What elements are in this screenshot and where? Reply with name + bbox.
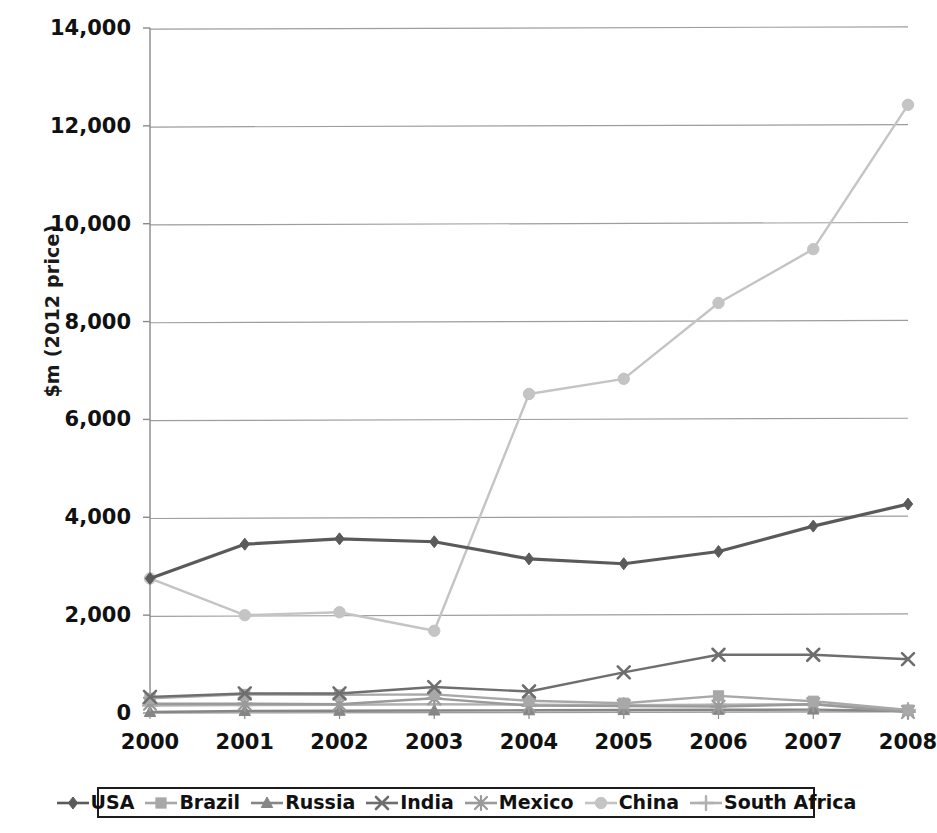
legend-item-label: Russia <box>285 793 355 812</box>
legend-item-china[interactable]: China <box>579 793 684 812</box>
legend-item-label: USA <box>91 793 135 812</box>
marker-diamond <box>619 558 628 570</box>
marker-circle <box>595 797 606 808</box>
legend-item-label: South Africa <box>724 793 856 812</box>
chart-legend: USABrazilRussiaIndiaMexicoChinaSouth Afr… <box>97 787 815 818</box>
legend-marker-square-icon <box>144 794 178 812</box>
gridline-10000 <box>150 223 908 225</box>
marker-asterisk <box>474 796 488 810</box>
gridline-14000 <box>150 27 908 29</box>
gridline-4000 <box>150 516 908 518</box>
marker-circle <box>618 373 629 384</box>
marker-circle <box>334 607 345 618</box>
gridline-6000 <box>150 418 908 420</box>
marker-square <box>619 698 629 708</box>
gridline-8000 <box>150 320 908 322</box>
legend-item-label: China <box>619 793 679 812</box>
marker-diamond <box>335 533 344 545</box>
series-usa <box>145 498 912 584</box>
marker-square <box>524 696 534 706</box>
legend-marker-asterisk-icon <box>464 794 498 812</box>
marker-circle <box>239 609 250 620</box>
legend-marker-circle-icon <box>584 794 618 812</box>
legend-marker-diamond-icon <box>56 794 90 812</box>
marker-circle <box>902 99 913 110</box>
marker-square <box>808 696 818 706</box>
legend-item-south-africa[interactable]: South Africa <box>684 793 861 812</box>
legend-item-brazil[interactable]: Brazil <box>139 793 245 812</box>
legend-marker-triangle-icon <box>250 794 284 812</box>
marker-diamond <box>903 498 912 510</box>
marker-diamond <box>430 536 439 548</box>
marker-asterisk <box>712 700 726 714</box>
legend-item-mexico[interactable]: Mexico <box>459 793 579 812</box>
gridline-12000 <box>150 125 908 127</box>
marker-diamond <box>68 797 77 809</box>
marker-circle <box>429 625 440 636</box>
marker-square <box>903 705 913 715</box>
legend-item-usa[interactable]: USA <box>51 793 140 812</box>
series-line-usa <box>150 504 908 578</box>
marker-diamond <box>240 538 249 550</box>
legend-item-label: India <box>400 793 454 812</box>
legend-marker-plus-icon <box>689 794 723 812</box>
legend-item-label: Mexico <box>499 793 574 812</box>
legend-marker-x-icon <box>365 794 399 812</box>
marker-diamond <box>524 553 533 565</box>
marker-square <box>713 691 723 701</box>
marker-diamond <box>809 520 818 532</box>
marker-square <box>156 797 166 807</box>
legend-item-label: Brazil <box>179 793 240 812</box>
marker-circle <box>713 297 724 308</box>
marker-circle <box>523 388 534 399</box>
legend-item-india[interactable]: India <box>360 793 459 812</box>
legend-item-russia[interactable]: Russia <box>245 793 360 812</box>
marker-diamond <box>714 546 723 558</box>
series-line-china <box>150 105 908 631</box>
marker-plus <box>699 796 713 810</box>
marker-circle <box>808 243 819 254</box>
